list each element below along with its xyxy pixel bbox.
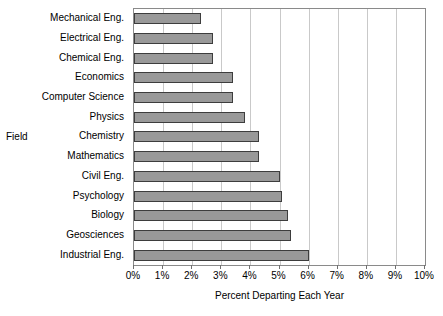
bar bbox=[134, 72, 233, 83]
bar bbox=[134, 191, 282, 202]
x-axis-tick bbox=[279, 265, 280, 269]
x-axis-tick bbox=[395, 265, 396, 269]
y-axis-category-label: Mechanical Eng. bbox=[0, 8, 129, 28]
x-axis-tick-label: 0% bbox=[126, 270, 140, 282]
x-axis-tick-label: 2% bbox=[184, 270, 198, 282]
x-axis-tick-label: 6% bbox=[300, 270, 314, 282]
y-axis-category-label: Economics bbox=[0, 67, 129, 87]
x-axis-tick-label: 7% bbox=[329, 270, 343, 282]
x-axis-tick bbox=[337, 265, 338, 269]
x-axis-tick bbox=[366, 265, 367, 269]
y-axis-category-labels: Mechanical Eng.Electrical Eng.Chemical E… bbox=[0, 8, 129, 264]
y-axis-category-label: Chemistry bbox=[0, 126, 129, 146]
bar bbox=[134, 33, 213, 44]
y-axis-category-label: Computer Science bbox=[0, 87, 129, 107]
y-axis-category-label: Geosciences bbox=[0, 225, 129, 245]
x-axis-tick bbox=[308, 265, 309, 269]
bar-row bbox=[134, 245, 425, 265]
x-axis-tick-label: 1% bbox=[155, 270, 169, 282]
plot-area bbox=[133, 8, 426, 266]
bar-series bbox=[134, 9, 425, 265]
y-axis-category-label: Electrical Eng. bbox=[0, 28, 129, 48]
y-axis-category-label: Psychology bbox=[0, 185, 129, 205]
x-axis-tick bbox=[249, 265, 250, 269]
x-axis-tick-label: 9% bbox=[388, 270, 402, 282]
bar bbox=[134, 230, 291, 241]
bar-row bbox=[134, 9, 425, 29]
bar bbox=[134, 53, 213, 64]
bar-row bbox=[134, 186, 425, 206]
x-axis-tick bbox=[424, 265, 425, 269]
x-axis-tick-labels: 0%1%2%3%4%5%6%7%8%9%10% bbox=[133, 270, 426, 284]
bar-chart: Field Mechanical Eng.Electrical Eng.Chem… bbox=[0, 0, 443, 316]
y-axis-category-label: Industrial Eng. bbox=[0, 244, 129, 264]
y-axis-category-label: Civil Eng. bbox=[0, 166, 129, 186]
bar bbox=[134, 171, 280, 182]
bar-row bbox=[134, 48, 425, 68]
bar bbox=[134, 210, 288, 221]
x-axis-title: Percent Departing Each Year bbox=[133, 290, 426, 302]
bar-row bbox=[134, 167, 425, 187]
bar bbox=[134, 131, 259, 142]
x-axis-tick bbox=[162, 265, 163, 269]
x-axis-tick-label: 5% bbox=[271, 270, 285, 282]
bar-row bbox=[134, 68, 425, 88]
bar-row bbox=[134, 88, 425, 108]
x-axis-tick-label: 10% bbox=[414, 270, 434, 282]
bar bbox=[134, 92, 233, 103]
bar-row bbox=[134, 127, 425, 147]
bar-row bbox=[134, 206, 425, 226]
bar-row bbox=[134, 107, 425, 127]
bar bbox=[134, 151, 259, 162]
bar bbox=[134, 13, 201, 24]
x-axis-tick-label: 8% bbox=[359, 270, 373, 282]
x-axis-tick bbox=[133, 265, 134, 269]
x-axis-tick bbox=[220, 265, 221, 269]
bar bbox=[134, 250, 309, 261]
x-axis-tick-label: 3% bbox=[213, 270, 227, 282]
y-axis-category-label: Chemical Eng. bbox=[0, 47, 129, 67]
bar-row bbox=[134, 147, 425, 167]
x-axis-tick bbox=[191, 265, 192, 269]
bar-row bbox=[134, 226, 425, 246]
y-axis-category-label: Mathematics bbox=[0, 146, 129, 166]
bar-row bbox=[134, 29, 425, 49]
bar bbox=[134, 112, 245, 123]
y-axis-category-label: Physics bbox=[0, 106, 129, 126]
y-axis-category-label: Biology bbox=[0, 205, 129, 225]
x-axis-tick-label: 4% bbox=[242, 270, 256, 282]
